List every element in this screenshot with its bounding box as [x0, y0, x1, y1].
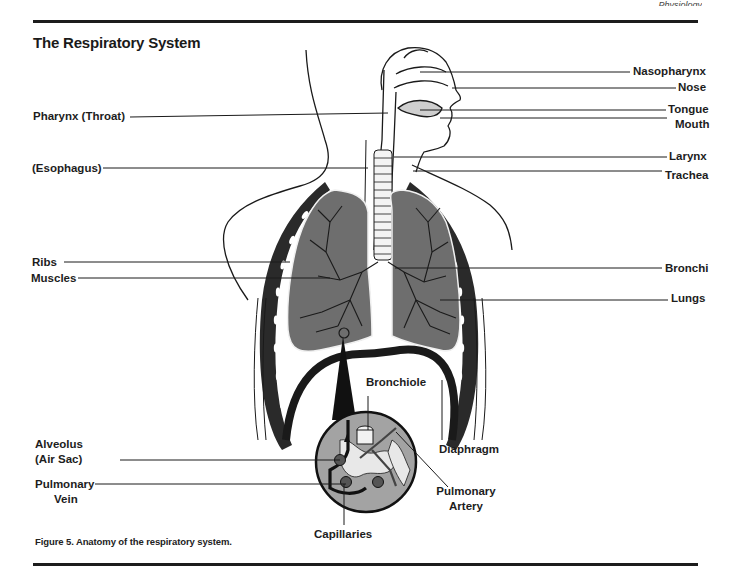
label-bronchiole: Bronchiole	[366, 376, 426, 389]
label-pulmonary-artery-line2: Artery	[434, 500, 498, 513]
label-alveolus-line1: Alveolus	[35, 438, 83, 451]
trachea-rings	[374, 150, 392, 260]
zoom-pointer	[332, 336, 356, 420]
label-pulmonary-vein-line1: Pulmonary	[35, 478, 94, 491]
label-muscles: Muscles	[31, 272, 76, 285]
respiratory-illustration	[0, 0, 736, 580]
label-bronchi: Bronchi	[665, 262, 708, 275]
figure-caption: Figure 5. Anatomy of the respiratory sys…	[35, 536, 232, 547]
alveolus-inset	[316, 412, 416, 512]
label-nasopharynx: Nasopharynx	[633, 65, 706, 78]
label-pharynx: Pharynx (Throat)	[33, 110, 125, 123]
label-diaphragm: Diaphragm	[439, 443, 499, 456]
label-larynx: Larynx	[669, 150, 707, 163]
label-mouth: Mouth	[675, 118, 709, 131]
label-pulmonary-artery-line1: Pulmonary	[434, 485, 498, 498]
label-pulmonary-vein-line2: Vein	[54, 493, 78, 506]
label-esophagus: (Esophagus)	[32, 162, 102, 175]
label-nose: Nose	[678, 81, 706, 94]
label-alveolus-line2: (Air Sac)	[35, 453, 82, 466]
bottom-rule	[33, 563, 698, 566]
label-ribs: Ribs	[32, 256, 57, 269]
label-capillaries: Capillaries	[314, 528, 372, 541]
label-lungs: Lungs	[671, 292, 706, 305]
label-trachea: Trachea	[665, 169, 708, 182]
label-tongue: Tongue	[668, 103, 709, 116]
